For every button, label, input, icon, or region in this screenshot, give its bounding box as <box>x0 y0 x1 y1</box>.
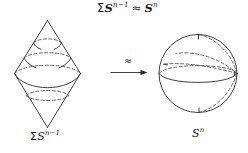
upper-latitude-arc-high-front-right <box>54 43 61 49</box>
lower-latitude-arc-front <box>26 96 69 101</box>
equator-back-arc <box>15 65 81 73</box>
title-base-right: S <box>145 1 154 15</box>
sphere-meridian-upper-back <box>199 35 237 74</box>
equator-front-arc <box>15 74 81 88</box>
arrow-head-icon <box>141 70 148 75</box>
figure-root: ΣSn−1≈Sn ≈ ΣSn−1 Sn <box>0 0 248 153</box>
sphere-equator-front <box>159 74 237 83</box>
title-relation: ≈ <box>129 1 145 15</box>
upper-latitude-arc-mid-front-right <box>59 58 71 68</box>
lower-latitude-arc <box>26 90 69 95</box>
title-exponent-left: n−1 <box>113 0 129 9</box>
arrow-approx-symbol: ≈ <box>124 55 133 66</box>
upper-latitude-arc-high <box>34 39 62 43</box>
sphere-meridian-upper-mid <box>176 53 237 74</box>
suspension-base: S <box>37 130 45 143</box>
approximation-arrow <box>111 70 148 75</box>
sphere-label: Sn <box>192 127 204 140</box>
arrow-approx-label: ≈ <box>124 55 133 66</box>
sphere-base: S <box>192 127 200 140</box>
sphere-exponent: n <box>200 126 205 134</box>
sphere-pole-tick-left <box>164 64 168 65</box>
upper-latitude-arc-mid <box>24 53 71 58</box>
title-formula: ΣSn−1≈Sn <box>97 1 158 15</box>
upper-latitude-arc-high-front-left <box>34 43 42 49</box>
title-exponent-right: n <box>153 0 158 9</box>
suspension-exponent: n−1 <box>45 129 60 137</box>
sphere-outline <box>159 35 237 113</box>
sphere-shape <box>159 35 237 113</box>
sphere-equator-back <box>159 66 237 74</box>
suspension-shape <box>15 21 81 128</box>
suspension-label: ΣSn−1 <box>30 130 60 143</box>
title-base-left: S <box>104 1 113 15</box>
